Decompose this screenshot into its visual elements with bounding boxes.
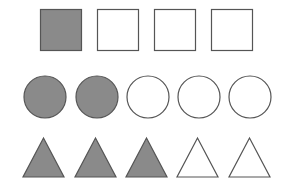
filled-circle-icon	[76, 76, 118, 118]
filled-triangle-icon	[126, 138, 167, 177]
filled-triangle-icon	[75, 138, 116, 177]
triangles-row	[23, 138, 270, 177]
empty-square-icon	[155, 10, 196, 51]
circles-row	[24, 76, 271, 118]
shapes-diagram	[0, 0, 286, 188]
empty-circle-icon	[127, 76, 169, 118]
filled-triangle-icon	[23, 138, 64, 177]
empty-square-icon	[98, 10, 139, 51]
squares-row	[41, 10, 253, 51]
empty-circle-icon	[229, 76, 271, 118]
empty-circle-icon	[178, 76, 220, 118]
empty-triangle-icon	[229, 138, 270, 177]
empty-square-icon	[212, 10, 253, 51]
empty-triangle-icon	[177, 138, 218, 177]
filled-square-icon	[41, 10, 82, 51]
filled-circle-icon	[24, 76, 66, 118]
